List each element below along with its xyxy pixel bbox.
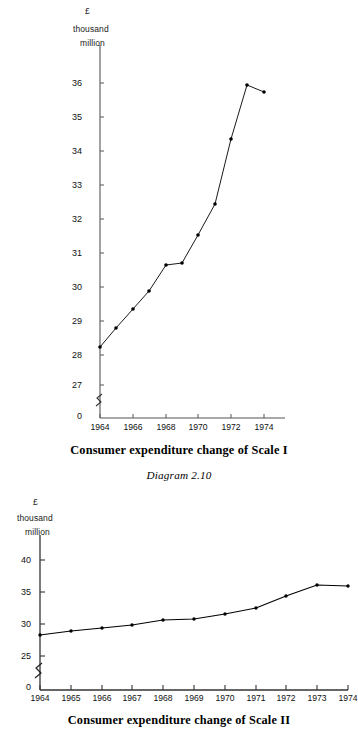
x-tick-label-1970-a: 1970: [180, 423, 216, 432]
x-tick-label-1966-a: 1966: [115, 423, 151, 432]
diagram-number: Diagram 2.10: [0, 469, 358, 481]
x-tick-marks-1: [100, 414, 264, 418]
caption-scale-2: Consumer expenditure change of Scale II: [0, 713, 358, 728]
y-tick-marks-2: [40, 560, 45, 656]
plot-area-scale-2: [0, 490, 358, 700]
data-markers-scale-1: [98, 83, 266, 349]
y-tick-marks-1: [100, 83, 104, 385]
plot-area-scale-1: [0, 0, 358, 430]
x-tick-marks-2: [40, 685, 348, 690]
x-tick-label-1964-a: 1964: [82, 423, 118, 432]
y-axis-break-icon-1: [96, 394, 102, 406]
caption-scale-1: Consumer expenditure change of Scale I: [0, 443, 358, 458]
data-line-scale-2: [40, 585, 348, 635]
x-tick-label-1972-a: 1972: [213, 423, 249, 432]
y-axis-break-icon-2: [35, 663, 42, 678]
data-line-scale-1: [100, 85, 264, 347]
x-tick-label-1974-a: 1974: [246, 423, 282, 432]
x-tick-label-1974-b: 1974: [330, 694, 358, 703]
x-tick-label-1968-a: 1968: [148, 423, 184, 432]
data-markers-scale-2: [38, 583, 349, 636]
